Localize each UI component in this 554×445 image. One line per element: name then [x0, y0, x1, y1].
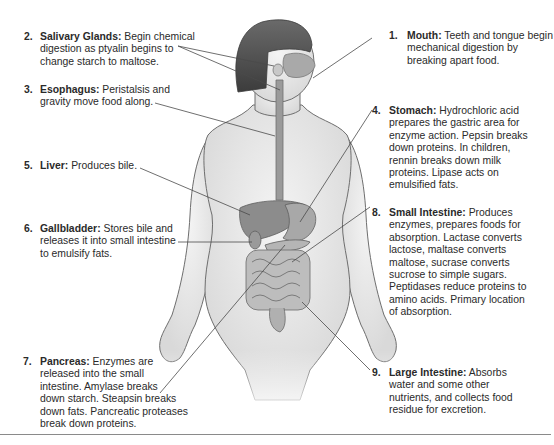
term-liver: Liver:	[40, 160, 68, 171]
label-mouth: 1. Mouth: Teeth and tongue beginmechanic…	[389, 30, 554, 67]
label-salivary-glands: 2. Salivary Glands: Begin chemicaldigest…	[24, 31, 204, 68]
term-small-intestine: Small Intestine:	[389, 207, 466, 218]
gallbladder	[249, 231, 261, 249]
term-mouth: Mouth:	[407, 30, 442, 41]
label-liver: 5. Liver: Produces bile.	[24, 160, 204, 172]
term-large-intestine: Large Intestine:	[389, 367, 466, 378]
term-pancreas: Pancreas:	[40, 356, 90, 367]
term-gallbladder: Gallbladder:	[40, 223, 101, 234]
label-small-intestine: 8. Small Intestine: Producesenzymes, pre…	[372, 207, 552, 319]
label-large-intestine: 9. Large Intestine: Absorbswater and som…	[372, 367, 552, 417]
term-salivary-glands: Salivary Glands:	[40, 31, 121, 42]
label-stomach: 4. Stomach: Hydrochloric acidprepares th…	[372, 105, 552, 192]
label-pancreas: 7. Pancreas: Enzymes arereleased into th…	[23, 356, 203, 430]
esophagus	[276, 80, 283, 200]
term-stomach: Stomach:	[389, 105, 436, 116]
salivary-gland	[273, 64, 283, 76]
label-gallbladder: 6. Gallbladder: Stores bile andreleases …	[24, 223, 204, 260]
label-esophagus: 3. Esophagus: Peristalsis andgravity mov…	[24, 84, 204, 109]
bottom-divider	[0, 434, 551, 435]
term-esophagus: Esophagus:	[40, 84, 99, 95]
